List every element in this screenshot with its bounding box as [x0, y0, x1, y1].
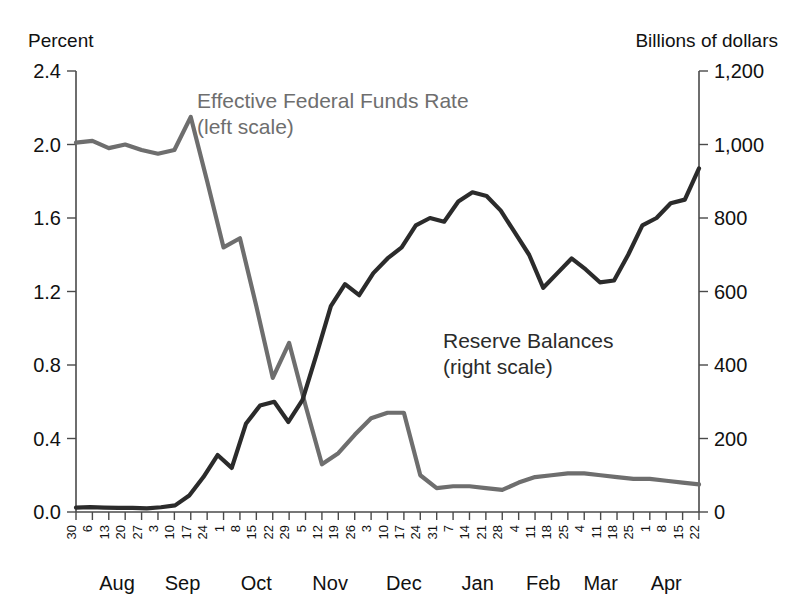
x-tick-label: 8 — [654, 525, 669, 532]
x-tick-label: 19 — [326, 525, 341, 539]
x-month-label: Nov — [312, 572, 348, 594]
chart-container: Percent Billions of dollars 2.42.01.61.2… — [0, 0, 794, 604]
x-tick-label: 25 — [556, 525, 571, 539]
x-tick-label: 7 — [441, 525, 456, 532]
x-tick-label: 3 — [146, 525, 161, 532]
left-tick-label: 2.4 — [33, 60, 61, 82]
annotation-reserve-line2: (right scale) — [443, 354, 613, 380]
x-tick-label: 10 — [376, 525, 391, 539]
x-tick-label: 18 — [539, 525, 554, 539]
right-tick-label: 0 — [714, 501, 725, 523]
x-axis-month-labels: AugSepOctNovDecJanFebMarApr — [99, 572, 682, 594]
x-tick-label: 25 — [621, 525, 636, 539]
series-line-effr — [76, 117, 699, 490]
annotation-effr-line2: (left scale) — [197, 114, 469, 140]
right-tick-label: 200 — [714, 428, 747, 450]
x-tick-label: 29 — [277, 525, 292, 539]
x-tick-label: 12 — [310, 525, 325, 539]
x-tick-label: 17 — [179, 525, 194, 539]
x-axis-ticks: 3061320273101724181522295121926310172431… — [64, 512, 702, 539]
x-tick-label: 24 — [408, 525, 423, 539]
annotation-reserve-line1: Reserve Balances — [443, 328, 613, 354]
x-month-label: Aug — [99, 572, 135, 594]
x-tick-label: 1 — [638, 525, 653, 532]
x-tick-label: 14 — [457, 525, 472, 539]
x-tick-label: 17 — [392, 525, 407, 539]
left-tick-label: 0.0 — [33, 501, 61, 523]
x-tick-label: 22 — [687, 525, 702, 539]
x-tick-label: 11 — [589, 525, 604, 539]
x-tick-label: 20 — [113, 525, 128, 539]
left-tick-label: 1.6 — [33, 207, 61, 229]
x-tick-label: 27 — [130, 525, 145, 539]
right-axis-ticks: 1,2001,0008006004002000 — [699, 60, 764, 523]
x-tick-label: 1 — [212, 525, 227, 532]
x-tick-label: 13 — [97, 525, 112, 539]
right-tick-label: 600 — [714, 281, 747, 303]
x-tick-label: 30 — [64, 525, 79, 539]
x-tick-label: 15 — [671, 525, 686, 539]
x-tick-label: 21 — [474, 525, 489, 539]
left-tick-label: 1.2 — [33, 281, 61, 303]
x-month-label: Sep — [165, 572, 201, 594]
annotation-effr-line1: Effective Federal Funds Rate — [197, 88, 469, 114]
right-tick-label: 400 — [714, 354, 747, 376]
right-tick-label: 1,000 — [714, 134, 764, 156]
annotation-effr: Effective Federal Funds Rate (left scale… — [197, 88, 469, 139]
x-tick-label: 28 — [490, 525, 505, 539]
right-tick-label: 800 — [714, 207, 747, 229]
x-tick-label: 3 — [359, 525, 374, 532]
x-tick-label: 24 — [195, 525, 210, 539]
x-tick-label: 4 — [507, 525, 522, 532]
left-tick-label: 0.8 — [33, 354, 61, 376]
x-month-label: Jan — [462, 572, 494, 594]
x-month-label: Feb — [526, 572, 560, 594]
x-tick-label: 22 — [261, 525, 276, 539]
x-tick-label: 15 — [244, 525, 259, 539]
x-tick-label: 26 — [343, 525, 358, 539]
left-tick-label: 0.4 — [33, 428, 61, 450]
x-tick-label: 18 — [605, 525, 620, 539]
x-tick-label: 4 — [572, 525, 587, 532]
left-tick-label: 2.0 — [33, 134, 61, 156]
x-tick-label: 31 — [425, 525, 440, 539]
x-month-label: Oct — [241, 572, 273, 594]
annotation-reserve: Reserve Balances (right scale) — [443, 328, 613, 379]
x-month-label: Dec — [386, 572, 422, 594]
x-tick-label: 6 — [80, 525, 95, 532]
left-axis-ticks: 2.42.01.61.20.80.40.0 — [33, 60, 76, 523]
x-tick-label: 10 — [162, 525, 177, 539]
right-tick-label: 1,200 — [714, 60, 764, 82]
x-tick-label: 11 — [523, 525, 538, 539]
x-tick-label: 8 — [228, 525, 243, 532]
x-month-label: Mar — [583, 572, 618, 594]
x-tick-label: 5 — [294, 525, 309, 532]
x-month-label: Apr — [651, 572, 682, 594]
